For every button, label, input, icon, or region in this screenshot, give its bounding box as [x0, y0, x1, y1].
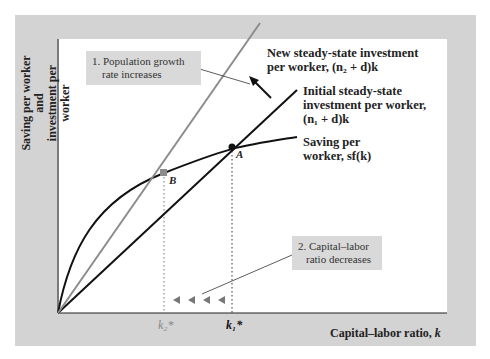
k1-tick-label: k₁* — [226, 318, 242, 333]
point-b — [160, 169, 167, 176]
y-axis-label-line2: investment per worker — [46, 48, 72, 158]
callout2-connector — [202, 255, 292, 294]
new-investment-label: New steady-state investment per worker, … — [267, 46, 418, 74]
shift-arrow-shaft — [254, 81, 271, 98]
saving-curve — [58, 137, 297, 313]
initial-investment-label-line2: investment per worker, — [303, 98, 426, 112]
callout2-line1: 2. Capital–labor — [298, 240, 376, 253]
point-a — [229, 144, 236, 151]
new-investment-label-line1: New steady-state investment — [267, 46, 418, 60]
x-axis-label: Capital–labor ratio, k — [330, 326, 441, 341]
left-arrow-icon — [203, 296, 210, 304]
initial-investment-label-line3: (n₁ + d)k — [303, 112, 426, 126]
initial-investment-label-line1: Initial steady-state — [303, 84, 426, 98]
left-arrow-icon — [173, 296, 180, 304]
x-axis-label-text: Capital–labor ratio, — [330, 326, 435, 340]
callout2-line2: ratio decreases — [298, 253, 376, 266]
point-a-label: A — [236, 148, 243, 160]
new-investment-label-line2: per worker, (n₂ + d)k — [267, 60, 418, 74]
saving-label-line1: Saving per — [303, 135, 371, 149]
callout1-connector — [193, 67, 250, 84]
y-axis-label: Saving per worker and investment per wor… — [20, 48, 60, 158]
x-axis-label-var: k — [435, 326, 441, 340]
initial-investment-label: Initial steady-state investment per work… — [303, 84, 426, 126]
saving-label: Saving per worker, sf(k) — [303, 135, 371, 163]
y-axis-label-line1: Saving per worker and — [20, 48, 46, 158]
saving-label-line2: worker, sf(k) — [303, 149, 371, 163]
left-arrow-icon — [218, 296, 225, 304]
k2-tick-label: k₂* — [158, 318, 174, 333]
initial-investment-line — [58, 90, 297, 313]
left-arrow-icon — [188, 296, 195, 304]
callout1-line2: rate increases — [92, 68, 195, 81]
callout-population-growth: 1. Population growth rate increases — [86, 51, 201, 85]
callout-capital-labor: 2. Capital–labor ratio decreases — [292, 236, 382, 270]
callout1-line1: 1. Population growth — [92, 55, 195, 68]
point-b-label: B — [169, 174, 176, 186]
